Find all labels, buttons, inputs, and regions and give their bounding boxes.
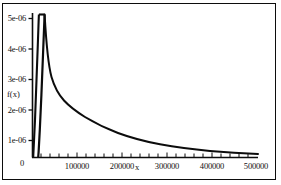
y-tick-label-3e-06: 3e-06	[0, 74, 26, 84]
x-tick-label-500000: 500000	[232, 161, 280, 171]
chart-svg	[0, 0, 281, 185]
chart-plot-area: 5e-06 4e-06 3e-06 2e-06 1e-06 f(x) 0 100…	[0, 0, 281, 185]
x-tick-label-400000: 400000	[188, 161, 236, 171]
x-tick-label-300000: 300000	[143, 161, 191, 171]
y-axis-title: f(x)	[7, 89, 20, 99]
y-tick-label-4e-06: 4e-06	[0, 44, 26, 54]
x-axis-title: x	[135, 162, 139, 172]
data-series-decay-curve	[45, 15, 258, 155]
y-tick-label-2e-06: 2e-06	[0, 105, 26, 115]
x-tick-label-100000: 100000	[53, 161, 101, 171]
y-tick-label-1e-06: 1e-06	[0, 135, 26, 145]
x-tick-label-0: 0	[12, 158, 32, 168]
data-series-spike-rise	[33, 15, 39, 158]
y-tick-label-5e-06: 5e-06	[0, 13, 26, 23]
